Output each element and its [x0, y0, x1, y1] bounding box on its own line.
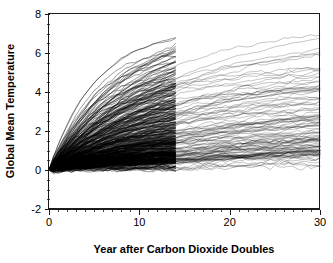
x-tick-label: 10 [133, 216, 145, 228]
x-tick-label: 20 [224, 216, 236, 228]
y-axis-title: Global Mean Temperature [4, 44, 16, 178]
y-tick-label: 6 [35, 47, 41, 59]
x-tick-label: 30 [314, 216, 326, 228]
ensemble-line-chart: 0102030 -202468 Year after Carbon Dioxid… [0, 0, 333, 263]
y-tick-label: 2 [35, 125, 41, 137]
chart-figure: 0102030 -202468 Year after Carbon Dioxid… [0, 0, 333, 263]
y-tick-label: 4 [35, 86, 41, 98]
y-tick-label: 0 [35, 164, 41, 176]
x-axis-title: Year after Carbon Dioxide Doubles [94, 243, 275, 255]
y-tick-label: 8 [35, 8, 41, 20]
y-tick-label: -2 [31, 203, 41, 215]
x-tick-label: 0 [46, 216, 52, 228]
